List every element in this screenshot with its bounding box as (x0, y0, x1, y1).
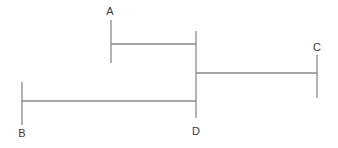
node-label-b: B (18, 128, 26, 139)
diagram-lines (0, 0, 338, 148)
node-label-a: A (106, 6, 114, 17)
node-label-d: D (192, 126, 200, 137)
node-label-c: C (313, 42, 321, 53)
diagram-canvas: A B C D (0, 0, 338, 148)
